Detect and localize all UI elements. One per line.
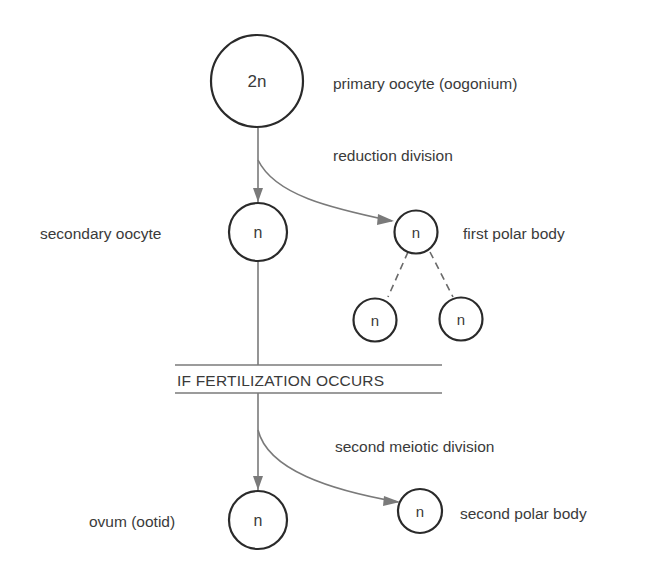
oogenesis-diagram: IF FERTILIZATION OCCURS 2n primary oocyt… <box>0 0 654 574</box>
label-primary-oocyte: primary oocyte (oogonium) <box>333 75 517 92</box>
arrowhead-icon <box>253 188 263 202</box>
arrowhead-icon <box>383 496 400 506</box>
ploidy-label: n <box>371 312 379 329</box>
node-secondary-oocyte: n <box>229 203 287 261</box>
arrowhead-icon <box>253 476 263 490</box>
node-primary-oocyte: 2n <box>211 35 303 127</box>
ploidy-label: n <box>254 224 263 241</box>
label-first-polar-body: first polar body <box>463 225 565 242</box>
label-reduction-division: reduction division <box>333 147 453 164</box>
ploidy-label: 2n <box>248 72 267 91</box>
dashed-line-first-polar-left <box>388 252 408 297</box>
label-ovum: ovum (ootid) <box>89 513 175 530</box>
node-second-polar-body: n <box>398 489 442 533</box>
label-second-polar-body: second polar body <box>460 505 587 522</box>
ploidy-label: n <box>254 512 263 529</box>
arrowhead-icon <box>377 214 394 225</box>
ploidy-label: n <box>457 311 465 328</box>
node-first-polar-body: n <box>395 211 438 254</box>
ploidy-label: n <box>416 503 424 520</box>
node-first-polar-child-right: n <box>440 298 483 341</box>
node-first-polar-child-left: n <box>354 299 397 342</box>
ploidy-label: n <box>412 224 420 241</box>
node-ovum: n <box>229 491 287 549</box>
fertilization-banner: IF FERTILIZATION OCCURS <box>177 372 384 389</box>
dashed-line-first-polar-right <box>430 252 453 297</box>
label-secondary-oocyte: secondary oocyte <box>40 225 162 242</box>
label-second-meiotic-division: second meiotic division <box>335 438 494 455</box>
